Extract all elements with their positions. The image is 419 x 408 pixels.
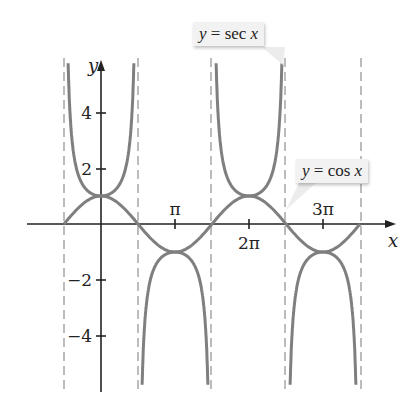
- x-axis-label: x: [388, 230, 398, 251]
- x-axis-arrow-icon: [385, 220, 396, 228]
- cos-label-y: y: [302, 161, 310, 180]
- tick-label-3pi: 3π: [312, 199, 334, 219]
- sec-branch: [216, 63, 282, 196]
- sec-label-x: x: [251, 24, 259, 43]
- chart-canvas: π 2π 3π 4 2 −2 −4 y x: [0, 0, 419, 408]
- sec-label-text: = sec: [207, 24, 251, 43]
- tick-label-2: 2: [81, 159, 92, 179]
- sec-branch: [290, 252, 356, 385]
- cos-label-text: = cos: [310, 161, 355, 180]
- tick-label-m4: −4: [67, 326, 92, 346]
- cos-label-x: x: [355, 161, 363, 180]
- y-axis-arrow-icon: [97, 60, 105, 71]
- tick-label-pi: π: [169, 199, 180, 219]
- tick-label-2pi: 2π: [238, 233, 260, 253]
- tick-label-m2: −2: [67, 270, 92, 290]
- cos-callout: y = cos x: [296, 159, 368, 183]
- y-axis-label: y: [87, 55, 99, 76]
- sec-branch: [142, 252, 208, 385]
- sec-callout-pointer: [262, 47, 285, 65]
- sec-label-y: y: [199, 24, 207, 43]
- tick-label-4: 4: [81, 103, 92, 123]
- sec-callout: y = sec x: [193, 22, 264, 46]
